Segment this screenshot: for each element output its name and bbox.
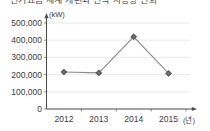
y-axis-tick-label: 400,000 (11, 35, 42, 45)
data-point-marker-core (167, 72, 169, 74)
x-axis-tick-label: 2015 (159, 114, 178, 124)
y-axis-unit-label: (kW) (49, 10, 65, 19)
x-axis-tick-labels: 2012201320142015 (54, 114, 178, 124)
line-chart: 0100,000200,000300,000400,000500,000 201… (0, 0, 210, 131)
y-axis-tick-label: 300,000 (11, 52, 42, 62)
data-point-marker-core (63, 71, 65, 73)
y-axis-tick-labels: 0100,000200,000300,000400,000500,000 (11, 18, 42, 114)
x-axis-tick-label: 2012 (54, 114, 73, 124)
x-axis-tick-label: 2014 (124, 114, 143, 124)
data-point-marker-core (133, 36, 135, 38)
y-axis-tick-label: 200,000 (11, 70, 42, 80)
x-axis-unit-label: (년) (183, 115, 195, 125)
y-axis-arrow-icon (44, 13, 48, 18)
y-axis-tick-label: 100,000 (11, 87, 42, 97)
series-line-path (64, 37, 169, 74)
x-axis-tick-label: 2013 (89, 114, 108, 124)
y-axis-tick-label: 0 (37, 104, 42, 114)
y-axis-tick-label: 500,000 (11, 18, 42, 28)
data-point-marker-core (98, 72, 100, 74)
x-axis-arrow-icon (192, 107, 197, 111)
gridlines (44, 23, 190, 109)
